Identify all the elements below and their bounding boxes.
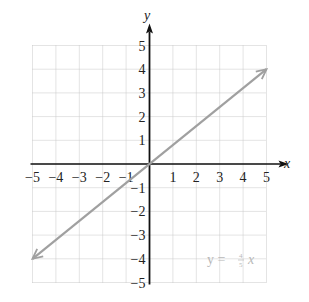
x-tick-label: −3 bbox=[72, 170, 87, 185]
y-tick-label: −5 bbox=[131, 276, 146, 291]
y-axis-label: y bbox=[142, 8, 151, 23]
coordinate-plane: −5−4−3−2−11234554321−1−2−3−4−5 x y y = 4… bbox=[0, 0, 309, 302]
equation-variable: x bbox=[247, 252, 255, 267]
x-axis-label: x bbox=[283, 156, 291, 171]
y-tick-label: 1 bbox=[139, 133, 146, 148]
x-tick-label: 3 bbox=[216, 170, 223, 185]
axes bbox=[31, 24, 289, 285]
equation-label: y = 4 5 x bbox=[207, 252, 255, 269]
x-tick-label: −5 bbox=[25, 170, 40, 185]
y-tick-label: 5 bbox=[139, 39, 146, 54]
y-tick-label: −4 bbox=[131, 252, 146, 267]
y-tick-label: −2 bbox=[131, 204, 146, 219]
y-tick-label: 4 bbox=[139, 62, 146, 77]
x-tick-label: −4 bbox=[48, 170, 63, 185]
y-tick-label: 2 bbox=[139, 110, 146, 125]
equation-denominator: 5 bbox=[239, 261, 243, 269]
equation-lhs: y = bbox=[207, 252, 226, 267]
y-tick-label: 3 bbox=[139, 86, 146, 101]
x-tick-label: 4 bbox=[240, 170, 247, 185]
equation-numerator: 4 bbox=[239, 252, 243, 260]
y-tick-label: −3 bbox=[131, 228, 146, 243]
x-tick-label: 1 bbox=[169, 170, 176, 185]
x-tick-label: −2 bbox=[95, 170, 110, 185]
x-tick-label: 2 bbox=[193, 170, 200, 185]
x-tick-label: 5 bbox=[263, 170, 270, 185]
y-tick-label: −1 bbox=[131, 181, 146, 196]
